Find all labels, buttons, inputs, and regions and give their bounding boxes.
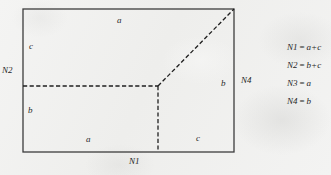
legend-n1-value: a+c	[307, 42, 322, 52]
region-label-right-b: b	[221, 79, 226, 88]
node-label-n1: N1	[129, 157, 140, 166]
legend-n3-equals: =	[298, 78, 307, 88]
legend-n3-name: N3	[287, 78, 298, 88]
region-label-bottom-right-c: c	[196, 134, 200, 143]
legend-n1-name: N1	[287, 42, 298, 52]
legend-n2-equals: =	[298, 60, 307, 70]
legend-row-n4: N4=b	[287, 92, 331, 110]
legend-row-n3: N3=a	[287, 74, 331, 92]
legend-n1-equals: =	[298, 42, 307, 52]
outer-rectangle	[23, 9, 234, 152]
legend-row-n2: N2=b+c	[287, 56, 331, 74]
node-label-n2: N2	[2, 66, 13, 75]
region-label-top-a: a	[117, 16, 122, 25]
partition-diagram: a c b a c b N2 N4 N1 N1=a+c N2=b+c N3=a …	[0, 0, 331, 175]
legend-n2-value: b+c	[307, 60, 322, 70]
legend-n4-value: b	[307, 96, 312, 106]
figure-graphics	[0, 0, 331, 175]
legend-row-n1: N1=a+c	[287, 38, 331, 56]
dashed-diagonal-line	[158, 9, 234, 86]
legend-n3-value: a	[307, 78, 312, 88]
region-label-bottom-left-a: a	[86, 135, 91, 144]
node-label-n4: N4	[241, 76, 252, 85]
legend-n2-name: N2	[287, 60, 298, 70]
legend-n4-equals: =	[298, 96, 307, 106]
legend-n4-name: N4	[287, 96, 298, 106]
region-label-lower-left-b: b	[28, 106, 33, 115]
region-label-upper-left-c: c	[29, 42, 33, 51]
legend-equation-list: N1=a+c N2=b+c N3=a N4=b	[287, 38, 331, 110]
